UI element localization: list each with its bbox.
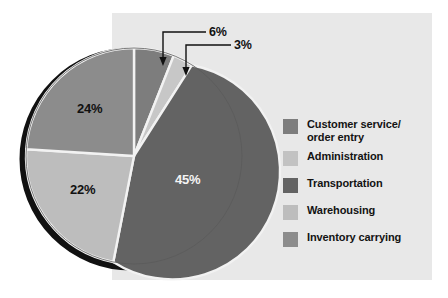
legend-item-inventory-carrying[interactable]: Inventory carrying <box>283 231 443 251</box>
chart-figure: 6% 3% 45% 22% 24% Customer service/ orde… <box>0 0 448 298</box>
chart-legend: Customer service/ order entry Administra… <box>283 118 443 258</box>
legend-label-line1: Transportation <box>307 177 383 190</box>
legend-swatch-transportation <box>283 178 298 193</box>
legend-swatch-warehousing <box>283 205 298 220</box>
legend-label-transportation: Transportation <box>307 177 383 190</box>
legend-item-transportation[interactable]: Transportation <box>283 177 443 197</box>
legend-swatch-administration <box>283 151 298 166</box>
legend-label-inventory-carrying: Inventory carrying <box>307 231 401 244</box>
pie-label-6-percent: 6% <box>209 25 227 39</box>
legend-label-administration: Administration <box>307 150 383 163</box>
legend-item-warehousing[interactable]: Warehousing <box>283 204 443 224</box>
legend-label-line2: order entry <box>307 131 401 144</box>
pie-label-3-percent: 3% <box>234 38 252 52</box>
legend-swatch-inventory-carrying <box>283 232 298 247</box>
legend-label-customer-service: Customer service/ order entry <box>307 118 401 143</box>
legend-label-warehousing: Warehousing <box>307 204 375 217</box>
legend-label-line1: Administration <box>307 150 383 163</box>
legend-label-line1: Inventory carrying <box>307 231 401 244</box>
legend-swatch-customer-service <box>283 119 298 134</box>
legend-item-administration[interactable]: Administration <box>283 150 443 170</box>
legend-item-customer-service[interactable]: Customer service/ order entry <box>283 118 443 143</box>
legend-label-line1: Warehousing <box>307 204 375 217</box>
legend-label-line1: Customer service/ <box>307 118 401 131</box>
pie-label-45-percent: 45% <box>175 172 200 187</box>
pie-label-22-percent: 22% <box>70 182 95 197</box>
pie-label-24-percent: 24% <box>77 101 102 116</box>
pie-slice-warehousing[interactable] <box>26 149 134 262</box>
